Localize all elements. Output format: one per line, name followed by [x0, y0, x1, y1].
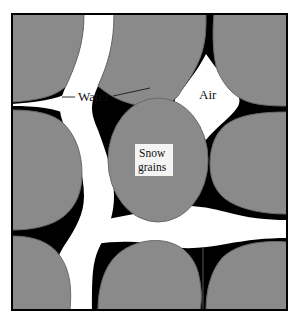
diagram-canvas: Water Air Snow grains [0, 0, 298, 326]
snow-label-line1: Snow [139, 147, 166, 159]
water-label: Water [78, 89, 109, 104]
snow-label-line2: grains [138, 161, 167, 174]
air-label: Air [199, 87, 217, 102]
snow-grain-diagram: Water Air Snow grains [0, 0, 298, 326]
